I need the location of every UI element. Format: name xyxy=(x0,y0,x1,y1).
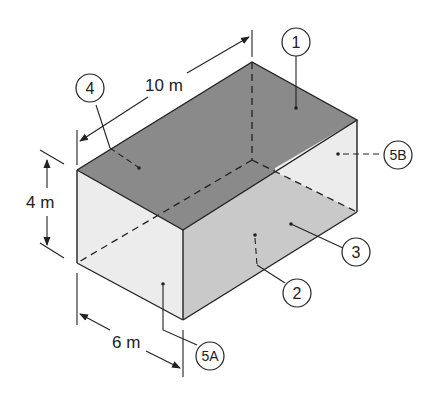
length-label: 10 m xyxy=(145,76,183,95)
svg-text:4: 4 xyxy=(86,80,95,97)
callout-2: 2 xyxy=(283,279,311,307)
callout-1: 1 xyxy=(282,28,310,56)
svg-text:2: 2 xyxy=(293,285,302,302)
callout-5a: 5A xyxy=(196,342,224,370)
svg-text:1: 1 xyxy=(292,34,301,51)
callout-4: 4 xyxy=(76,74,104,102)
height-label: 4 m xyxy=(26,193,54,212)
svg-text:5B: 5B xyxy=(389,147,406,163)
room-diagram: 10 m 4 m 6 m 1 4 xyxy=(0,0,431,395)
svg-text:5A: 5A xyxy=(201,348,219,364)
svg-text:3: 3 xyxy=(352,244,361,261)
width-label: 6 m xyxy=(112,333,140,352)
callout-5b: 5B xyxy=(384,141,412,169)
callout-3: 3 xyxy=(342,238,370,266)
